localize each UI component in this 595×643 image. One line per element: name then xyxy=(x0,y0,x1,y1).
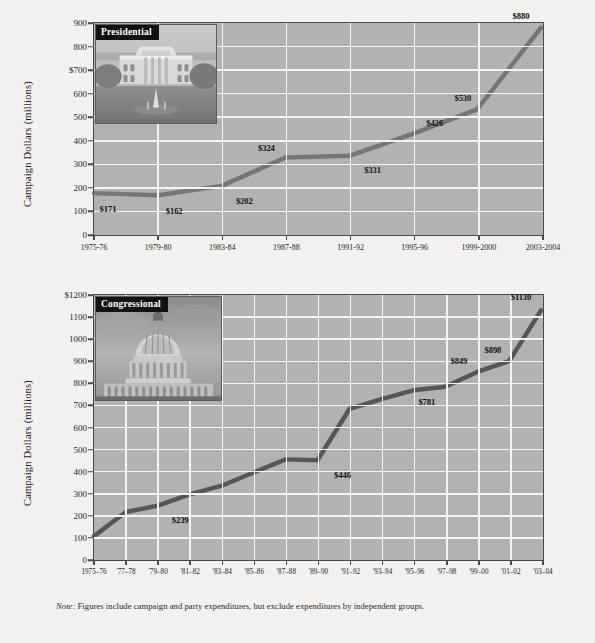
data-point-label: $1130 xyxy=(511,292,532,302)
y-tick-mark xyxy=(88,316,93,318)
x-tick-mark xyxy=(350,235,352,240)
y-tick-mark xyxy=(88,93,93,95)
y-tick-label: 300 xyxy=(74,489,88,499)
presidential-photo-caption: Presidential xyxy=(96,25,159,40)
data-point-label: $446 xyxy=(334,470,351,480)
y-tick-mark xyxy=(88,69,93,71)
y-tick-label: 100 xyxy=(74,533,88,543)
y-tick-label: 200 xyxy=(74,183,88,193)
y-tick-mark xyxy=(88,471,93,473)
data-point-label: $324 xyxy=(258,143,275,153)
data-point-label: $162 xyxy=(166,206,183,216)
x-tick-label: '01–02 xyxy=(501,568,520,576)
gridline-vertical xyxy=(414,295,416,560)
x-tick-label: '77–78 xyxy=(116,568,135,576)
x-tick-mark xyxy=(446,560,448,565)
y-tick-mark xyxy=(88,116,93,118)
congressional-photo-caption: Congressional xyxy=(96,297,168,312)
congressional-photo: Congressional xyxy=(95,296,222,401)
y-tick-mark xyxy=(88,537,93,539)
x-tick-mark xyxy=(93,235,95,240)
x-tick-label: 1983-84 xyxy=(209,243,236,252)
gridline-vertical xyxy=(350,295,352,560)
y-tick-mark xyxy=(88,234,93,236)
y-tick-label: 900 xyxy=(74,356,88,366)
presidential-y-axis-title: Campaign Dollars (millions) xyxy=(22,44,33,244)
y-tick-label: 1100 xyxy=(69,312,87,322)
x-tick-label: 1975-76 xyxy=(81,243,108,252)
gridline-vertical xyxy=(414,23,416,235)
x-tick-label: 1999-2000 xyxy=(462,243,497,252)
x-tick-label: 1995-96 xyxy=(401,243,428,252)
gridline-vertical xyxy=(478,295,480,560)
y-tick-label: 200 xyxy=(74,511,88,521)
y-tick-mark xyxy=(88,187,93,189)
note-label: Note: xyxy=(56,601,75,611)
y-tick-mark xyxy=(88,46,93,48)
x-tick-mark xyxy=(478,560,480,565)
y-tick-label: 300 xyxy=(74,159,88,169)
x-tick-label: 1991-92 xyxy=(337,243,364,252)
y-tick-label: 0 xyxy=(83,555,88,565)
gridline-vertical xyxy=(222,23,224,235)
y-tick-mark xyxy=(88,515,93,517)
gridline-horizontal xyxy=(94,140,543,142)
data-point-label: $239 xyxy=(172,515,189,525)
x-tick-mark xyxy=(93,560,95,565)
data-point-label: $898 xyxy=(485,345,502,355)
congressional-chart: Campaign Dollars (millions) 010020030040… xyxy=(0,290,595,595)
x-tick-mark xyxy=(222,235,224,240)
x-tick-label: '93–94 xyxy=(373,568,392,576)
x-tick-mark xyxy=(414,235,416,240)
congressional-y-axis-title: Campaign Dollars (millions) xyxy=(22,328,33,558)
x-tick-mark xyxy=(478,235,480,240)
gridline-vertical xyxy=(286,295,288,560)
y-tick-mark xyxy=(88,338,93,340)
gridline-vertical xyxy=(510,295,512,560)
y-tick-mark xyxy=(88,22,93,24)
x-tick-label: '03–04 xyxy=(533,568,552,576)
data-point-label: $880 xyxy=(513,11,530,21)
y-tick-label: 500 xyxy=(74,112,88,122)
y-tick-label: 600 xyxy=(74,89,88,99)
data-point-label: $781 xyxy=(418,397,435,407)
x-tick-label: '95–96 xyxy=(405,568,424,576)
x-tick-label: '89–90 xyxy=(309,568,328,576)
x-tick-mark xyxy=(350,560,352,565)
x-tick-mark xyxy=(125,560,127,565)
white-house-photo xyxy=(96,25,216,123)
x-tick-mark xyxy=(382,560,384,565)
y-tick-mark xyxy=(88,559,93,561)
presidential-photo: Presidential xyxy=(95,24,217,124)
y-tick-label: 800 xyxy=(74,42,88,52)
y-tick-mark xyxy=(88,449,93,451)
presidential-chart: Campaign Dollars (millions) 010020030040… xyxy=(0,18,595,270)
figure-note: Note: Figures include campaign and party… xyxy=(56,601,556,611)
y-tick-label: 900 xyxy=(74,18,88,28)
y-tick-label: 0 xyxy=(83,230,88,240)
x-tick-label: 1975–76 xyxy=(81,568,106,576)
y-tick-mark xyxy=(88,405,93,407)
x-tick-mark xyxy=(157,560,159,565)
x-tick-mark xyxy=(542,560,544,565)
x-tick-mark xyxy=(286,235,288,240)
data-point-label: $331 xyxy=(364,165,381,175)
x-tick-label: 1979-80 xyxy=(145,243,172,252)
x-tick-mark xyxy=(318,560,320,565)
x-tick-label: '79–80 xyxy=(149,568,168,576)
y-tick-label: 400 xyxy=(74,136,88,146)
x-tick-mark xyxy=(222,560,224,565)
gridline-horizontal xyxy=(94,211,543,213)
y-tick-mark xyxy=(88,294,93,296)
x-tick-mark xyxy=(254,560,256,565)
y-tick-label: $1200 xyxy=(65,290,88,300)
y-tick-mark xyxy=(88,211,93,213)
y-tick-mark xyxy=(88,140,93,142)
x-tick-label: 1987-88 xyxy=(273,243,300,252)
x-tick-label: '85–86 xyxy=(245,568,264,576)
y-tick-label: 500 xyxy=(74,445,88,455)
y-tick-label: 1000 xyxy=(69,334,87,344)
gridline-vertical xyxy=(382,295,384,560)
x-tick-mark xyxy=(157,235,159,240)
data-point-label: $426 xyxy=(426,118,443,128)
